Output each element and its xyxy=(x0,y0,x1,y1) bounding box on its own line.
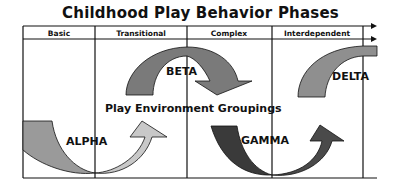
phase-label-interdependent: Interdependent xyxy=(284,29,351,38)
alpha-label: ALPHA xyxy=(66,135,108,148)
phase-label-complex: Complex xyxy=(211,29,247,38)
delta-label: DELTA xyxy=(332,70,369,83)
gamma-label: GAMMA xyxy=(241,134,289,147)
phase-label-basic: Basic xyxy=(48,29,70,38)
beta-label: BETA xyxy=(166,65,198,78)
timeline-arrow-icon xyxy=(371,23,377,42)
phases-diagram: Basic Transitional Complex Interdependen… xyxy=(0,0,401,186)
center-label: Play Environment Groupings xyxy=(105,102,282,115)
gamma-arrow-icon xyxy=(211,125,344,175)
phase-label-transitional: Transitional xyxy=(116,29,166,38)
